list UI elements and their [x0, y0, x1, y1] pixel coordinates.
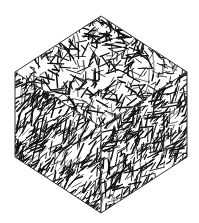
cube-right-face	[96, 54, 199, 218]
cube-svg	[0, 0, 199, 223]
cube-figure	[0, 0, 199, 223]
